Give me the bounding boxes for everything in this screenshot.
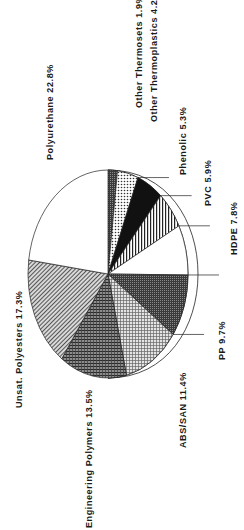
- label-pvc: PVC 5.9%: [203, 160, 213, 206]
- label-other-thermosets: Other Thermosets 1.9%: [134, 0, 144, 108]
- label-phenolic: Phenolic 5.3%: [178, 107, 188, 175]
- pie-chart: Other Thermosets 1.9%Other Thermoplastic…: [0, 0, 244, 530]
- pie-slice-polyurethane: [29, 170, 108, 274]
- label-hdpe: HDPE 7.8%: [229, 202, 239, 255]
- label-pp: PP 9.7%: [217, 321, 227, 360]
- label-abs-san: ABS/SAN 11.4%: [178, 372, 188, 448]
- label-engineering-polymers: Engineering Polymers 13.5%: [84, 389, 94, 528]
- label-polyurethane: Polyurethane 22.8%: [45, 64, 55, 160]
- label-unsat-polyesters: Unsat. Polyesters 17.3%: [14, 291, 24, 408]
- label-other-thermoplastics: Other Thermoplastics 4.2%: [149, 0, 159, 122]
- pie-slices: [28, 170, 188, 378]
